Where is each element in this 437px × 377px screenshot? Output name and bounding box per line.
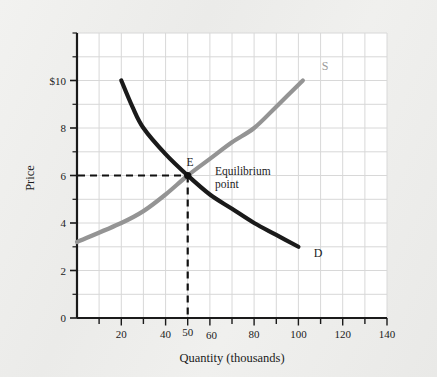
x-tick-label-100: 100 bbox=[290, 328, 307, 340]
x-tick-label-80: 80 bbox=[249, 328, 261, 340]
x-tick-label-140: 140 bbox=[379, 328, 396, 340]
demand-curve-label: D bbox=[314, 246, 323, 260]
y-axis-title: Price bbox=[23, 165, 37, 191]
equilibrium-annotation-line-1: Equilibrium bbox=[215, 165, 271, 178]
y-tick-label-6: 6 bbox=[61, 170, 67, 182]
x-axis-ticks bbox=[99, 318, 387, 326]
x-axis-title: Quantity (thousands) bbox=[179, 351, 284, 365]
y-tick-label-2: 2 bbox=[61, 265, 67, 277]
equilibrium-point-label: E bbox=[186, 156, 193, 168]
figure-container: 0 2 4 6 8 $10 20 40 50 60 80 100 120 140… bbox=[0, 0, 437, 377]
equilibrium-annotation-line-2: point bbox=[215, 178, 239, 191]
x-tick-label-50: 50 bbox=[182, 326, 194, 338]
y-tick-label-0: 0 bbox=[61, 312, 67, 324]
y-tick-label-4: 4 bbox=[61, 217, 67, 229]
supply-demand-chart: 0 2 4 6 8 $10 20 40 50 60 80 100 120 140… bbox=[0, 0, 437, 377]
x-tick-label-60: 60 bbox=[206, 329, 218, 341]
y-tick-label-8: 8 bbox=[61, 122, 67, 134]
x-tick-label-20: 20 bbox=[116, 328, 128, 340]
x-tick-label-120: 120 bbox=[334, 328, 351, 340]
x-tick-label-40: 40 bbox=[160, 328, 172, 340]
equilibrium-point-marker bbox=[184, 172, 191, 179]
y-tick-label-10: $10 bbox=[50, 75, 67, 87]
supply-curve-label: S bbox=[322, 59, 329, 73]
